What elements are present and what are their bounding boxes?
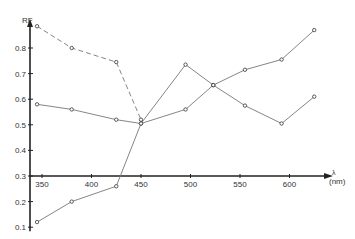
- data-point-marker: [35, 220, 38, 223]
- data-point-marker: [70, 46, 73, 49]
- data-point-marker: [313, 95, 316, 98]
- data-point-marker: [184, 63, 187, 66]
- y-tick-label: 0.8: [15, 44, 27, 53]
- data-point-marker: [280, 122, 283, 125]
- y-tick-label: 0.7: [15, 70, 27, 79]
- chart-canvas: 0.10.20.30.40.50.60.70.83504004505005506…: [0, 0, 355, 239]
- series-dashed-line: [37, 26, 141, 120]
- line-chart: 0.10.20.30.40.50.60.70.83504004505005506…: [0, 0, 355, 239]
- y-tick-label: 0.4: [15, 146, 27, 155]
- data-point-marker: [70, 200, 73, 203]
- x-tick-label: 550: [233, 180, 247, 189]
- data-point-marker: [243, 104, 246, 107]
- series-1-line: [37, 30, 314, 123]
- y-tick-label: 0.2: [15, 198, 27, 207]
- series-2-line: [37, 65, 314, 223]
- y-tick-label: 0.1: [15, 223, 27, 232]
- x-axis-symbol: λ: [332, 169, 336, 176]
- data-point-marker: [280, 58, 283, 61]
- x-tick-label: 450: [134, 180, 148, 189]
- y-axis-label: RF: [22, 16, 33, 25]
- axes: 0.10.20.30.40.50.60.70.83504004505005506…: [15, 19, 333, 232]
- data-point-marker: [35, 25, 38, 28]
- data-point-marker: [139, 122, 142, 125]
- data-point-marker: [212, 83, 215, 86]
- y-tick-label: 0.6: [15, 95, 27, 104]
- data-point-marker: [243, 68, 246, 71]
- data-point-marker: [115, 185, 118, 188]
- data-point-marker: [184, 108, 187, 111]
- y-tick-label: 0.3: [15, 172, 27, 181]
- x-tick-label: 500: [184, 180, 198, 189]
- data-point-marker: [115, 60, 118, 63]
- x-tick-label: 400: [85, 180, 99, 189]
- data-point-marker: [35, 103, 38, 106]
- y-tick-label: 0.5: [15, 121, 27, 130]
- series-group: [35, 25, 316, 224]
- data-point-marker: [139, 118, 142, 121]
- data-point-marker: [70, 108, 73, 111]
- x-axis-unit: (nm): [329, 177, 346, 186]
- x-tick-label: 350: [35, 180, 49, 189]
- x-tick-label: 600: [283, 180, 297, 189]
- data-point-marker: [115, 118, 118, 121]
- data-point-marker: [313, 28, 316, 31]
